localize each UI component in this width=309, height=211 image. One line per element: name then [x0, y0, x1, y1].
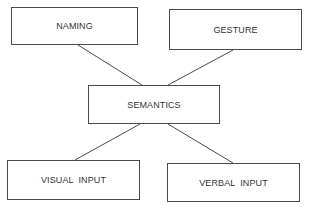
edge-semantics-verbal-input — [168, 124, 233, 163]
node-gesture: GESTURE — [169, 9, 302, 50]
node-visual-input: VISUAL INPUT — [7, 160, 140, 200]
node-gesture-label: GESTURE — [213, 25, 257, 35]
node-semantics-label: SEMANTICS — [127, 100, 180, 110]
node-visual-input-label: VISUAL INPUT — [41, 175, 106, 185]
node-verbal-input: VERBAL INPUT — [167, 163, 300, 202]
node-verbal-input-label: VERBAL INPUT — [199, 178, 267, 188]
node-semantics: SEMANTICS — [88, 85, 220, 124]
edge-gesture-semantics — [168, 50, 233, 85]
edge-naming-semantics — [78, 45, 142, 85]
edge-semantics-visual-input — [75, 124, 140, 160]
node-naming-label: NAMING — [56, 21, 93, 31]
node-naming: NAMING — [11, 7, 138, 45]
